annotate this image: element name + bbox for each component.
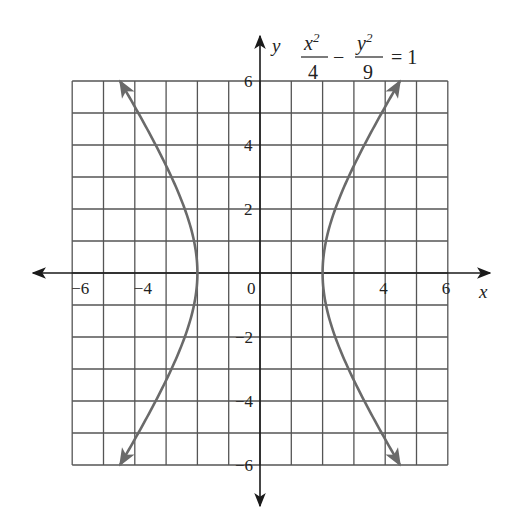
- eq-den1: 4: [308, 61, 318, 83]
- equation-label: x2 4 − y2 9 = 1: [301, 30, 417, 83]
- eq-rhs: = 1: [391, 46, 417, 68]
- y-tick-label: −4: [235, 392, 254, 411]
- eq-num2-var: y: [355, 32, 366, 55]
- y-tick-label: 6: [244, 72, 253, 91]
- y-tick-label: 4: [244, 136, 253, 155]
- y-tick-label: 2: [244, 200, 253, 219]
- svg-text:x2: x2: [303, 30, 320, 54]
- y-tick-label: −6: [235, 456, 253, 475]
- x-tick-label: −6: [71, 279, 89, 298]
- eq-minus: −: [333, 46, 344, 68]
- x-tick-label: 0: [247, 279, 256, 298]
- svg-text:y2: y2: [355, 30, 373, 55]
- y-tick-label: −2: [235, 328, 253, 347]
- eq-num1-var: x: [303, 32, 313, 54]
- eq-num1-exp: 2: [313, 30, 320, 45]
- x-tick-label: 4: [379, 279, 388, 298]
- x-tick-label: −4: [134, 279, 153, 298]
- y-axis-label: y: [270, 35, 281, 56]
- eq-den2: 9: [363, 61, 373, 83]
- hyperbola-chart: −6−4046 642−2−4−6 x y x2 4 − y2 9 = 1: [0, 0, 519, 524]
- x-tick-label: 6: [442, 279, 451, 298]
- eq-num2-exp: 2: [366, 30, 373, 45]
- x-axis-label: x: [478, 281, 488, 302]
